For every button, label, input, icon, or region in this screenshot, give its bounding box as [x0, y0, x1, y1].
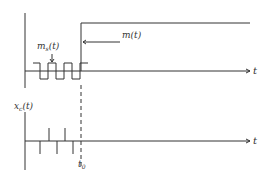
t0-label: t0: [78, 159, 86, 170]
step-signal-m: [81, 23, 250, 71]
m-label: m(t): [122, 30, 142, 40]
top-axis-label: t: [253, 65, 258, 76]
ms-label: ms(t): [37, 41, 60, 52]
ms-label-base: m: [37, 41, 46, 51]
bottom-axis-label: t: [253, 135, 258, 146]
xc-label-arg: (t): [22, 101, 33, 111]
t0-label-sub: 0: [82, 163, 86, 170]
ms-label-arg: (t): [49, 41, 60, 51]
xc-label: xc(t): [14, 101, 34, 112]
diagram-canvas: t m(t) ms(t) t xc(t) t0: [0, 0, 268, 181]
